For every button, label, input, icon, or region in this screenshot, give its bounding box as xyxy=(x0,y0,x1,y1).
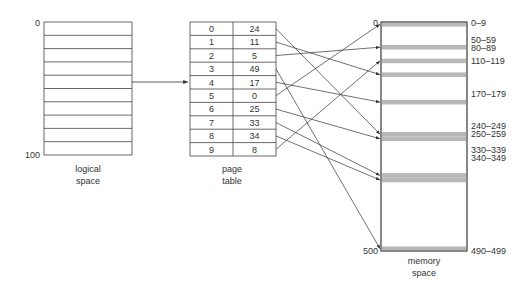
frame-number: 34 xyxy=(249,131,259,141)
frame-range-label: 0–9 xyxy=(471,18,486,28)
page-number: 4 xyxy=(209,78,214,88)
mapping-arrows xyxy=(276,24,380,248)
paging-diagram: 0 100 logical space 02411125349417506257… xyxy=(0,0,529,289)
page-number: 1 xyxy=(209,37,214,47)
frame-number: 8 xyxy=(252,145,257,155)
frame-number: 49 xyxy=(249,64,259,74)
frame-number: 24 xyxy=(249,24,259,34)
frame-range-label: 250–259 xyxy=(471,129,506,139)
memory-space-label-2: space xyxy=(412,268,436,278)
logical-top-label: 0 xyxy=(35,18,40,28)
page-number: 5 xyxy=(209,91,214,101)
frame-range-label: 340–349 xyxy=(471,153,506,163)
memory-frame xyxy=(381,100,467,105)
frame-number: 5 xyxy=(252,51,257,61)
frame-range-label: 110–119 xyxy=(471,56,505,66)
page-table-label: page xyxy=(222,164,242,174)
page-number: 6 xyxy=(209,104,214,114)
page-table-label-2: table xyxy=(222,176,242,186)
frame-number: 17 xyxy=(249,78,259,88)
memory-frame xyxy=(381,173,467,178)
page-number: 0 xyxy=(209,24,214,34)
memory-frame xyxy=(381,72,467,77)
memory-space: 0–950–5980–89110–119170–179240–249250–25… xyxy=(381,18,506,256)
logical-space xyxy=(44,22,132,155)
frame-range-label: 170–179 xyxy=(471,89,506,99)
logical-bottom-label: 100 xyxy=(25,150,40,160)
frame-range-label: 80–89 xyxy=(471,43,496,53)
page-number: 9 xyxy=(209,145,214,155)
memory-frame xyxy=(381,246,467,251)
memory-frame xyxy=(381,137,467,142)
page-number: 3 xyxy=(209,64,214,74)
page-number: 8 xyxy=(209,131,214,141)
frame-number: 25 xyxy=(249,104,259,114)
page-number: 7 xyxy=(209,118,214,128)
memory-bottom-label: 500 xyxy=(363,246,378,256)
memory-space-label: memory xyxy=(408,256,441,266)
logical-space-label-2: space xyxy=(76,176,100,186)
page-number: 2 xyxy=(209,51,214,61)
frame-number: 33 xyxy=(249,118,259,128)
memory-frame xyxy=(381,132,467,137)
logical-space-label: logical xyxy=(75,164,101,174)
memory-frame xyxy=(381,45,467,50)
frame-number: 11 xyxy=(250,37,259,47)
frame-number: 0 xyxy=(252,91,257,101)
memory-frame xyxy=(381,22,467,27)
page-table: 024111253494175062573383498 xyxy=(190,22,276,156)
memory-frame xyxy=(381,178,467,183)
memory-frame xyxy=(381,59,467,64)
frame-range-label: 490–499 xyxy=(471,246,506,256)
